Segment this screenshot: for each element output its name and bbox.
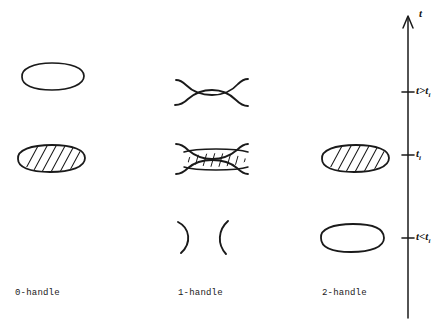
column-label-1-handle: 1-handle [178,288,223,298]
axis-tick-label-below: t<ti [416,230,430,245]
handle-decomposition-figure: t t>ti ti t<ti 0-handle 1-handle 2-handl… [0,0,448,329]
time-axis [402,16,414,318]
zero-handle-ellipse-above [22,63,84,90]
column-label-2-handle: 2-handle [322,288,367,298]
axis-tick-label-above: t>ti [416,84,430,99]
column-label-0-handle: 0-handle [15,288,60,298]
two-handle-ellipse-hatched-at [322,145,389,172]
one-handle-neck-open-above [175,79,248,106]
zero-handle-ellipse-hatched-at [18,145,85,172]
axis-tick-label-at: ti [416,147,421,162]
two-handle-ellipse-below [321,224,384,252]
one-handle-arcs-split-below [178,221,228,254]
one-handle-saddle-hatched-at [176,144,248,174]
axis-name-t: t [419,7,422,19]
figure-drawing-layer [0,0,448,329]
